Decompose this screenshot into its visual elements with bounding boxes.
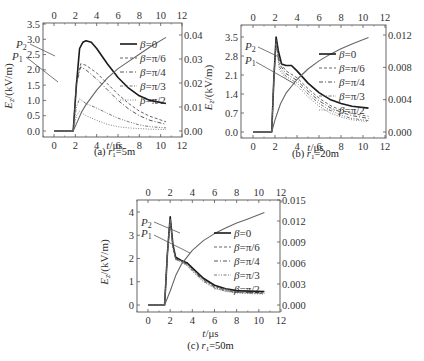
x-axis-label: t/μs bbox=[202, 327, 218, 339]
x-axis-ticks: 024681012 bbox=[242, 25, 390, 152]
top-x-tick-label: 12 bbox=[177, 10, 188, 21]
top-x-tick-label: 4 bbox=[294, 12, 300, 23]
legend-entry: β=π/4 bbox=[338, 76, 365, 88]
right-y-tick-label: 0.012 bbox=[388, 30, 412, 41]
y-tick-label: 2 bbox=[129, 253, 134, 264]
y-tick-label: 4 bbox=[129, 207, 135, 218]
panel-c: 024681012024681012012340.0000.0030.0060.… bbox=[98, 187, 306, 353]
right-y-tick-label: 0.006 bbox=[282, 258, 306, 269]
top-x-axis-ticks: 024681012 bbox=[51, 10, 187, 21]
x-tick-label: 0 bbox=[250, 141, 255, 152]
legend-entry: β=π/4 bbox=[139, 66, 166, 78]
x-tick-label: 4 bbox=[190, 315, 196, 326]
top-x-tick-label: 10 bbox=[155, 10, 166, 21]
y-tick-label: 0.0 bbox=[225, 127, 238, 138]
top-x-tick-label: 8 bbox=[137, 10, 142, 21]
legend-entry: β=π/4 bbox=[233, 255, 260, 267]
top-x-tick-label: 0 bbox=[51, 10, 56, 21]
right-y-tick-label: 0.00 bbox=[184, 126, 202, 137]
legend-entry: β=π/3 bbox=[139, 80, 166, 92]
y-tick-label: 2.1 bbox=[225, 70, 238, 81]
y-tick-label: 3.5 bbox=[27, 19, 40, 30]
legend-entry: β=π/2 bbox=[338, 104, 365, 116]
y-tick-label: 0.0 bbox=[27, 126, 40, 137]
legend: β=0β=π/6β=π/4β=π/3β=π/2 bbox=[120, 38, 166, 106]
annotation-label: P2 bbox=[244, 40, 256, 54]
x-tick-label: 8 bbox=[137, 140, 142, 151]
legend-entry: β=0 bbox=[139, 38, 158, 50]
y-tick-label: 3 bbox=[129, 230, 134, 241]
y-tick-label: 2.8 bbox=[225, 51, 238, 62]
y-tick-label: 2.5 bbox=[27, 49, 40, 60]
top-x-tick-label: 6 bbox=[115, 10, 120, 21]
right-y-tick-label: 0.02 bbox=[184, 78, 202, 89]
legend-entry: β=π/2 bbox=[233, 283, 260, 295]
right-y-axis-ticks: 0.0000.0040.0080.012 bbox=[383, 30, 412, 138]
legend-entry: β=π/6 bbox=[338, 62, 365, 74]
y-axis-label: Ez/(kV/m) bbox=[202, 65, 216, 112]
legend-entry: β=π/2 bbox=[139, 94, 166, 106]
right-y-tick-label: 0.015 bbox=[282, 195, 306, 206]
right-y-tick-label: 0.000 bbox=[282, 300, 306, 311]
top-x-axis-ticks: 024681012 bbox=[250, 12, 390, 23]
annotation-label: P1 bbox=[244, 54, 256, 68]
top-x-tick-label: 4 bbox=[190, 187, 196, 198]
x-tick-label: 2 bbox=[168, 315, 173, 326]
right-y-tick-label: 0.004 bbox=[388, 94, 412, 105]
x-tick-label: 8 bbox=[338, 141, 343, 152]
panel-caption: (c) r1=50m bbox=[187, 340, 233, 353]
right-y-axis-ticks: 0.0000.0030.0060.0090.0120.015 bbox=[277, 195, 306, 311]
panel-b: 0246810120246810120.00.71.42.12.83.50.00… bbox=[202, 12, 412, 161]
x-tick-label: 12 bbox=[380, 141, 391, 152]
x-tick-label: 12 bbox=[177, 140, 188, 151]
x-tick-label: 10 bbox=[254, 315, 265, 326]
right-y-axis-ticks: 0.000.010.020.030.04 bbox=[179, 30, 203, 137]
y-tick-label: 0.7 bbox=[225, 108, 238, 119]
y-axis-ticks: 01234 bbox=[129, 207, 140, 311]
legend-entry: β=π/6 bbox=[233, 241, 260, 253]
x-tick-label: 0 bbox=[51, 140, 56, 151]
panel-a: 0246810120246810120.00.51.01.52.02.53.03… bbox=[2, 10, 203, 159]
y-tick-label: 1.0 bbox=[27, 95, 40, 106]
top-x-tick-label: 10 bbox=[254, 187, 265, 198]
top-x-tick-label: 8 bbox=[234, 187, 239, 198]
top-x-tick-label: 0 bbox=[145, 187, 150, 198]
right-y-tick-label: 0.009 bbox=[282, 237, 306, 248]
legend-entry: β=π/6 bbox=[139, 52, 166, 64]
y-tick-label: 1.4 bbox=[225, 89, 239, 100]
top-x-axis-ticks: 024681012 bbox=[145, 187, 286, 198]
annotations: P2P1 bbox=[244, 40, 295, 84]
top-x-tick-label: 10 bbox=[358, 12, 369, 23]
right-y-tick-label: 0.000 bbox=[388, 127, 412, 138]
y-tick-label: 3.0 bbox=[27, 34, 40, 45]
top-x-tick-label: 0 bbox=[250, 12, 255, 23]
top-x-tick-label: 6 bbox=[212, 187, 217, 198]
x-tick-label: 2 bbox=[73, 140, 78, 151]
top-x-tick-label: 2 bbox=[168, 187, 173, 198]
right-y-tick-label: 0.008 bbox=[388, 62, 412, 73]
top-x-tick-label: 12 bbox=[380, 12, 391, 23]
right-y-tick-label: 0.003 bbox=[282, 279, 306, 290]
legend-entry: β=0 bbox=[338, 48, 357, 60]
top-x-tick-label: 8 bbox=[338, 12, 343, 23]
annotation-label: P1 bbox=[11, 50, 23, 64]
right-y-tick-label: 0.01 bbox=[184, 102, 202, 113]
top-x-tick-label: 2 bbox=[272, 12, 277, 23]
y-axis-label: Ez/(kV/m) bbox=[98, 239, 112, 286]
y-axis-label: Ez/(kV/m) bbox=[2, 63, 16, 110]
x-tick-label: 10 bbox=[155, 140, 166, 151]
legend: β=0β=π/6β=π/4β=π/3β=π/2 bbox=[319, 48, 365, 116]
x-tick-label: 12 bbox=[276, 315, 287, 326]
legend-entry: β=π/3 bbox=[338, 90, 365, 102]
panel-caption: (b) r1=20m bbox=[292, 148, 339, 161]
legend: β=0β=π/6β=π/4β=π/3β=π/2 bbox=[214, 227, 260, 295]
right-y-tick-label: 0.04 bbox=[184, 30, 203, 41]
x-tick-label: 10 bbox=[358, 141, 369, 152]
y-tick-label: 1 bbox=[129, 276, 134, 287]
x-axis-ticks: 024681012 bbox=[137, 200, 286, 326]
right-y-tick-label: 0.012 bbox=[282, 216, 306, 227]
figure-canvas: 0246810120246810120.00.51.01.52.02.53.03… bbox=[0, 0, 424, 361]
legend-entry: β=π/3 bbox=[233, 269, 260, 281]
legend-entry: β=0 bbox=[233, 227, 252, 239]
x-tick-label: 6 bbox=[212, 315, 217, 326]
